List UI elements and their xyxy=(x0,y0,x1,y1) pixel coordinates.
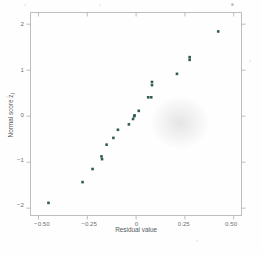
data-point xyxy=(151,84,154,87)
y-axis-title-group: Normal score z j xyxy=(7,92,16,138)
plot-frame xyxy=(31,13,242,216)
data-point-group xyxy=(47,30,219,204)
data-point xyxy=(81,181,84,184)
x-axis-ticks xyxy=(39,13,234,220)
data-point xyxy=(112,137,115,140)
data-point xyxy=(151,81,154,84)
y-tick-label: 1 xyxy=(21,66,25,73)
data-point xyxy=(188,56,191,59)
y-axis-title: Normal score z xyxy=(7,95,14,138)
y-tick-labels: −2−1012 xyxy=(17,20,25,207)
data-point xyxy=(133,114,136,117)
y-axis-title-subscript: j xyxy=(10,92,15,95)
data-point xyxy=(47,202,50,205)
data-point xyxy=(105,143,108,146)
data-point xyxy=(132,118,135,121)
x-tick-label: 0.50 xyxy=(225,220,238,227)
y-tick-label: −2 xyxy=(17,201,25,208)
x-tick-label: −0.25 xyxy=(81,220,97,227)
data-point xyxy=(100,155,103,158)
x-tick-label: −0.50 xyxy=(34,220,50,227)
x-tick-label: 0.25 xyxy=(178,220,191,227)
data-point xyxy=(101,158,104,161)
data-point xyxy=(150,96,153,99)
data-point xyxy=(147,96,150,99)
y-axis-ticks xyxy=(27,24,246,208)
y-tick-label: 2 xyxy=(21,20,25,27)
scatter-plot-figure: −0.50−0.2500.250.50 −2−1012 Residual val… xyxy=(0,0,262,254)
x-axis-title: Residual value xyxy=(115,226,157,233)
data-point xyxy=(128,123,131,126)
y-tick-label: 0 xyxy=(21,111,25,118)
data-point xyxy=(217,30,220,33)
plot-canvas: −0.50−0.2500.250.50 −2−1012 Residual val… xyxy=(0,0,262,254)
data-point xyxy=(137,110,140,113)
y-tick-label: −1 xyxy=(17,156,25,163)
data-point xyxy=(188,59,191,62)
data-point xyxy=(176,73,179,76)
data-point xyxy=(91,168,94,171)
data-point xyxy=(117,128,120,131)
